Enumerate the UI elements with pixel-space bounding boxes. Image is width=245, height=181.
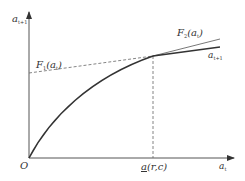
policy-curve-label-sub: t+1 (213, 55, 222, 61)
x-axis-label-sub: t (224, 166, 226, 172)
diagram-canvas (0, 0, 245, 181)
x-axis-label: at (219, 162, 226, 172)
diagram: at+1 F1(at) F2(at) at+1 O a(r,c) at (0, 0, 245, 181)
tick-label: a(r,c) (141, 162, 167, 172)
f2-label-sub: 2 (184, 33, 187, 39)
y-axis-label-sub: t+1 (18, 19, 27, 25)
f1-label: F1(at) (36, 60, 62, 71)
f2-label: F2(at) (177, 28, 203, 39)
f2-label-base: F (177, 27, 184, 38)
f1-label-base: F (36, 59, 43, 70)
f1-label-sub: 1 (43, 65, 46, 71)
y-axis-label: at+1 (12, 14, 27, 25)
f2-label-argsub: t (197, 33, 199, 39)
f1-label-argsub: t (56, 65, 58, 71)
policy-curve-label: at+1 (208, 51, 223, 61)
tick-label-args: (r,c) (147, 161, 167, 172)
origin-label: O (20, 161, 28, 171)
